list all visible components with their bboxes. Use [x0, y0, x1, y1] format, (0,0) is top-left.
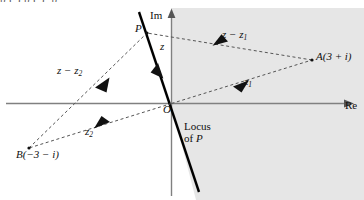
- imaginary-axis-label: Im: [150, 9, 162, 21]
- point-p-dot: [145, 31, 148, 34]
- vector-z-minus-z2-label: z − z2: [57, 64, 82, 78]
- locus-annotation: Locus of P: [184, 120, 211, 145]
- vector-z1-label: z1: [244, 75, 252, 89]
- vector-z-minus-z2-sub: 2: [78, 69, 82, 78]
- locus-annotation-line1: Locus: [184, 120, 211, 132]
- point-a-dot: [310, 58, 313, 61]
- vector-z-label: z: [160, 40, 164, 52]
- vector-z-minus-z1-sub: 1: [243, 33, 247, 42]
- locus-annotation-line2: of P: [184, 132, 211, 144]
- vector-z2-label: z2: [85, 125, 93, 139]
- point-a-label: A(3 + i): [316, 50, 352, 62]
- diagram-canvas: [0, 0, 364, 200]
- point-p-label: P: [135, 22, 142, 34]
- vector-z-main: z: [160, 40, 164, 52]
- real-axis-label: Re: [345, 99, 357, 111]
- vector-z1-sub: 1: [248, 80, 252, 89]
- vector-z-minus-z2-main: z − z: [57, 64, 78, 76]
- vector-z2-sub: 2: [89, 130, 93, 139]
- vector-z-minus-z1-main: z − z: [222, 28, 243, 40]
- point-b-label: B(−3 − i): [16, 148, 59, 160]
- arrowhead-z-minus-z2: [95, 78, 110, 93]
- vector-z-minus-z1-label: z − z1: [222, 28, 247, 42]
- origin-label: O: [163, 103, 171, 115]
- argand-diagram-figure: p ( ) p ( ), p: [0, 0, 364, 200]
- arrowhead-z2: [94, 116, 110, 128]
- arrowhead-z: [151, 63, 164, 79]
